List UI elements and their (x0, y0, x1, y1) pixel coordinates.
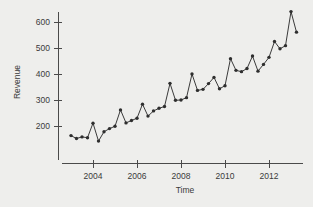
data-point (273, 40, 276, 43)
data-point (240, 70, 243, 73)
data-point (113, 125, 116, 128)
data-point (190, 72, 193, 75)
data-point (289, 10, 292, 13)
x-tick-label: 2008 (172, 172, 191, 181)
data-point (185, 96, 188, 99)
data-point (179, 98, 182, 101)
data-point (141, 102, 144, 105)
revenue-data-points (69, 10, 298, 143)
data-point (91, 121, 94, 124)
data-point (168, 82, 171, 85)
y-tick-label: 300 (0, 96, 50, 105)
data-point (69, 134, 72, 137)
data-point (135, 117, 138, 120)
x-axis-title: Time (176, 186, 195, 195)
data-point (119, 108, 122, 111)
revenue-line (71, 12, 297, 141)
data-point (152, 109, 155, 112)
data-point (284, 44, 287, 47)
data-point (245, 67, 248, 70)
data-point (75, 137, 78, 140)
revenue-time-series-chart: 200300400500600 20042006200820102012 Rev… (0, 0, 313, 207)
data-point (97, 139, 100, 142)
data-point (108, 127, 111, 130)
data-point (295, 30, 298, 33)
x-tick-label: 2004 (84, 172, 103, 181)
data-point (267, 56, 270, 59)
data-point (80, 135, 83, 138)
data-point (223, 84, 226, 87)
data-point (201, 88, 204, 91)
x-tick-label: 2006 (128, 172, 147, 181)
data-point (102, 130, 105, 133)
data-point (124, 121, 127, 124)
y-tick-label: 500 (0, 44, 50, 53)
y-tick-label: 200 (0, 122, 50, 131)
data-point (256, 69, 259, 72)
data-point (229, 57, 232, 60)
data-point (234, 69, 237, 72)
y-tick-label: 600 (0, 18, 50, 27)
data-point (251, 54, 254, 57)
data-point (262, 63, 265, 66)
x-axis (62, 160, 303, 168)
data-point (278, 47, 281, 50)
data-point (146, 114, 149, 117)
data-point (174, 99, 177, 102)
data-point (207, 82, 210, 85)
x-tick-label: 2012 (260, 172, 279, 181)
x-tick-label: 2010 (216, 172, 235, 181)
data-point (196, 89, 199, 92)
y-axis-title: Revenue (13, 65, 22, 99)
y-tick-label: 400 (0, 70, 50, 79)
data-point (86, 136, 89, 139)
data-point (130, 119, 133, 122)
data-point (157, 107, 160, 110)
y-axis (54, 12, 62, 160)
data-point (163, 105, 166, 108)
data-point (212, 76, 215, 79)
data-point (218, 87, 221, 90)
